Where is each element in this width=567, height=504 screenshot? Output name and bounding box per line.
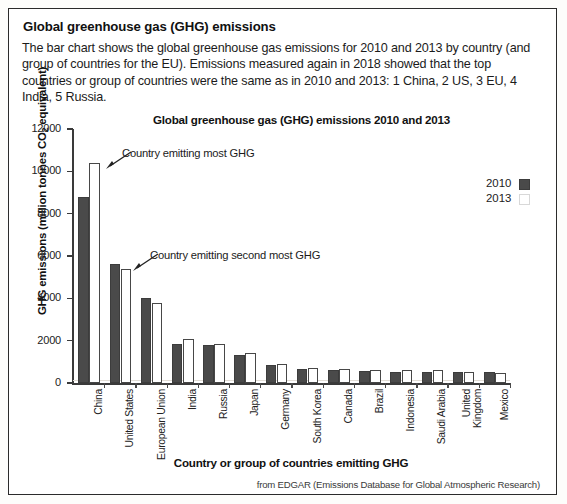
x-tick-mark — [510, 383, 511, 388]
legend-item-2013: 2013 — [486, 192, 548, 207]
bar-2010 — [484, 372, 495, 383]
bar-group — [453, 129, 475, 383]
y-tick-label: 8000 — [9, 207, 61, 219]
annotation-second-most-ghg: Country emitting second most GHG — [150, 249, 320, 261]
bar-group — [422, 129, 444, 383]
x-axis-label: United States — [124, 389, 135, 447]
y-tick-label: 0 — [9, 376, 61, 388]
x-tick-mark — [135, 383, 136, 388]
bar-2013 — [121, 269, 132, 383]
x-axis-label: UnitedKingdom — [462, 389, 483, 428]
y-tick-label: 2000 — [9, 334, 61, 346]
figure-page: Global greenhouse gas (GHG) emissions Th… — [0, 0, 567, 504]
bar-2013 — [245, 353, 256, 383]
x-axis-label: South Korea — [312, 389, 323, 443]
bar-2010 — [297, 369, 308, 383]
x-tick-mark — [323, 383, 324, 388]
bar-group — [328, 129, 350, 383]
x-axis-label: Brazil — [374, 389, 385, 413]
bar-2013 — [152, 303, 163, 383]
bar-2010 — [359, 371, 370, 383]
x-axis-label: Mexico — [499, 389, 510, 420]
legend-swatch-2013 — [519, 194, 530, 205]
y-axis-title: GHG emissions (million tonnes CO2 equiva… — [36, 61, 50, 321]
bar-2010 — [203, 345, 214, 383]
legend-item-2010: 2010 — [486, 177, 548, 192]
bar-2013 — [277, 364, 288, 383]
bar-2010 — [390, 372, 401, 383]
x-tick-mark — [385, 383, 386, 388]
bar-2013 — [308, 368, 319, 383]
x-axis-title: Country or group of countries emitting G… — [72, 456, 510, 469]
legend-label-2010: 2010 — [486, 177, 511, 189]
x-tick-mark — [229, 383, 230, 388]
x-axis-label: Germany — [280, 389, 291, 430]
figure-frame: Global greenhouse gas (GHG) emissions Th… — [8, 8, 557, 495]
x-tick-mark — [447, 383, 448, 388]
bar-group — [484, 129, 506, 383]
bar-2013 — [214, 344, 225, 383]
x-tick-mark — [104, 383, 105, 388]
legend-label-2013: 2013 — [486, 192, 511, 204]
y-tick-label: 4000 — [9, 291, 61, 303]
annotation-arrow-2 — [131, 251, 161, 273]
y-tick-label: 12000 — [9, 122, 61, 134]
x-tick-mark — [198, 383, 199, 388]
bar-2013 — [183, 339, 194, 383]
x-axis-label: Saudi Arabia — [436, 389, 447, 444]
x-tick-mark — [260, 383, 261, 388]
annotation-most-ghg: Country emitting most GHG — [122, 147, 254, 159]
bar-2010 — [453, 372, 464, 383]
y-tick-label: 10000 — [9, 164, 61, 176]
x-axis-label: Russia — [218, 389, 229, 419]
bar-2013 — [339, 369, 350, 383]
y-tick-label: 6000 — [9, 249, 61, 261]
bar-2013 — [402, 370, 413, 383]
legend-swatch-2010 — [519, 179, 530, 190]
bar-2010 — [234, 355, 245, 383]
x-tick-mark — [291, 383, 292, 388]
bar-2013 — [370, 370, 381, 383]
bar-2010 — [78, 197, 89, 383]
x-axis-label: China — [93, 389, 104, 415]
x-tick-mark — [479, 383, 480, 388]
annotation-arrow-1 — [104, 149, 134, 171]
x-tick-mark — [167, 383, 168, 388]
bar-2013 — [464, 372, 475, 383]
x-axis-label: India — [187, 389, 198, 410]
bar-2013 — [89, 163, 100, 383]
bar-2013 — [495, 373, 506, 383]
bar-2013 — [433, 370, 444, 383]
bar-group — [390, 129, 412, 383]
bar-group — [78, 129, 100, 383]
x-tick-mark — [354, 383, 355, 388]
x-axis-label: Japan — [249, 389, 260, 416]
bar-2010 — [141, 298, 152, 383]
x-tick-mark — [416, 383, 417, 388]
bar-2010 — [172, 344, 183, 383]
bar-2010 — [266, 365, 277, 383]
x-axis-label: Canada — [343, 389, 354, 424]
x-axis-label: European Union — [156, 389, 167, 460]
source-attribution: from EDGAR (Emissions Database for Globa… — [257, 479, 540, 490]
bar-2010 — [110, 264, 121, 383]
bar-2010 — [422, 372, 433, 383]
bar-2010 — [328, 370, 339, 383]
x-axis-label: Indonesia — [405, 389, 416, 431]
chart-plot-area: GHG emissions (million tonnes CO2 equiva… — [9, 9, 558, 496]
bar-group — [359, 129, 381, 383]
chart-legend: 2010 2013 — [486, 177, 548, 207]
